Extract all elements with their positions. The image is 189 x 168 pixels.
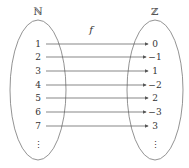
domain-ellipsis: ⋮ bbox=[34, 140, 43, 150]
mapping-row: 7 3 bbox=[35, 121, 158, 131]
domain-label: ℕ bbox=[33, 6, 42, 17]
domain-element: 6 bbox=[35, 107, 41, 117]
mapping-row: 2 −1 bbox=[35, 52, 162, 62]
codomain-element: −2 bbox=[148, 80, 161, 90]
codomain-element: 2 bbox=[152, 93, 158, 103]
domain-element: 3 bbox=[35, 66, 41, 76]
domain-element: 2 bbox=[35, 52, 41, 62]
mapping-row: 4 −2 bbox=[35, 80, 162, 90]
codomain-element: −1 bbox=[148, 52, 161, 62]
codomain-element: 3 bbox=[152, 121, 158, 131]
mapping-row: 6 −3 bbox=[35, 107, 162, 117]
codomain-ellipsis: ⋮ bbox=[151, 140, 160, 150]
function-label: f bbox=[88, 24, 95, 35]
domain-element: 1 bbox=[35, 39, 41, 49]
function-diagram: ℕ ℤ f 1 0 2 −1 3 1 4 −2 5 2 6 −3 7 3 ⋮ ⋮ bbox=[0, 0, 189, 168]
mapping-row: 5 2 bbox=[35, 93, 158, 103]
domain-element: 4 bbox=[35, 80, 41, 90]
domain-element: 5 bbox=[35, 93, 41, 103]
codomain-element: 1 bbox=[152, 66, 158, 76]
mapping-row: 3 1 bbox=[35, 66, 158, 76]
domain-element: 7 bbox=[35, 121, 41, 131]
codomain-element: −3 bbox=[148, 107, 162, 117]
codomain-element: 0 bbox=[152, 39, 158, 49]
codomain-label: ℤ bbox=[151, 6, 158, 17]
mapping-row: 1 0 bbox=[35, 39, 158, 49]
